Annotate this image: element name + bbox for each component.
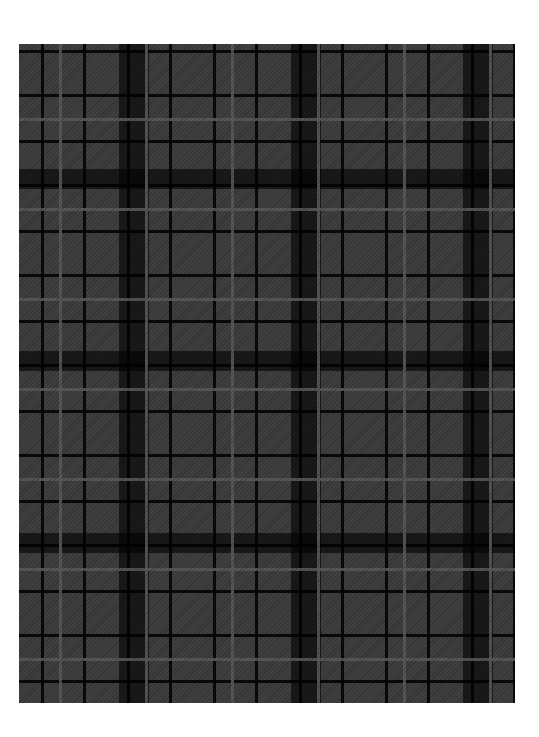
tartan-plaid-image [19, 44, 515, 703]
